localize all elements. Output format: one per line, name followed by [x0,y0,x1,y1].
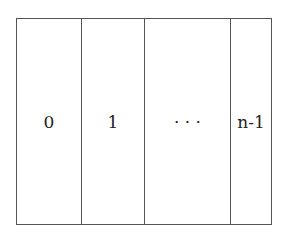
cell-label: 1 [108,112,119,132]
array-cell-0: 0 [17,19,81,224]
array-cell-ellipsis: · · · [144,19,230,224]
array-cell-last: n-1 [230,19,271,224]
ellipsis-label: · · · [174,112,201,132]
array-cell-1: 1 [81,19,144,224]
cell-label: 0 [44,112,55,132]
array-diagram: 0 1 · · · n-1 [16,18,272,225]
cell-label: n-1 [237,112,265,132]
